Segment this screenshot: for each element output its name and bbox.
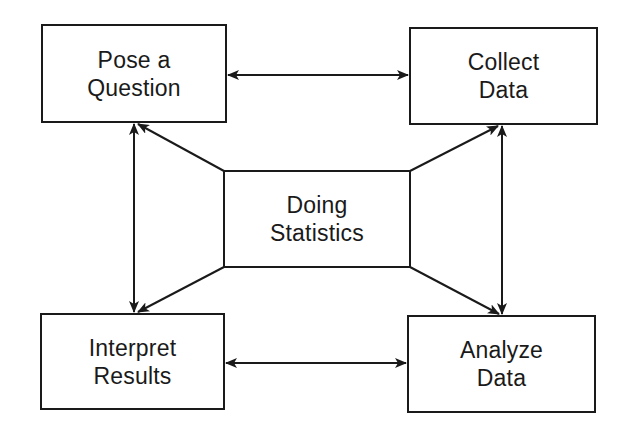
node-label: Doing Statistics [270, 191, 364, 247]
node-label-line: Analyze [460, 336, 543, 364]
node-label: Analyze Data [460, 336, 543, 392]
node-label-line: Results [93, 362, 171, 390]
arrow-doing-collect [410, 126, 498, 171]
node-analyze-data: Analyze Data [407, 315, 596, 413]
node-label: Pose a Question [87, 46, 181, 102]
node-label-line: Data [477, 364, 526, 392]
arrow-doing-analyze [410, 267, 499, 314]
node-label-line: Pose a [98, 46, 171, 74]
node-label-line: Collect [468, 48, 540, 76]
node-label: Interpret Results [89, 334, 176, 390]
arrow-doing-pose [138, 124, 224, 171]
node-pose-a-question: Pose a Question [41, 24, 227, 123]
node-label-line: Data [479, 76, 528, 104]
arrow-doing-interpret [138, 267, 224, 312]
node-label-line: Statistics [270, 219, 364, 247]
node-doing-statistics: Doing Statistics [223, 170, 411, 268]
node-label-line: Interpret [89, 334, 176, 362]
node-label-line: Doing [286, 191, 347, 219]
node-interpret-results: Interpret Results [40, 313, 225, 410]
node-label: Collect Data [468, 48, 540, 104]
node-label-line: Question [87, 74, 181, 102]
node-collect-data: Collect Data [409, 27, 598, 125]
